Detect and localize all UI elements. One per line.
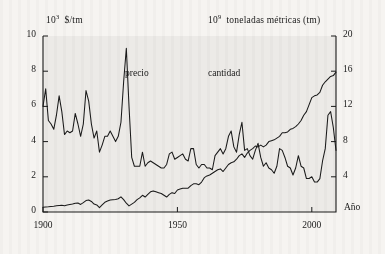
axis-frame: [43, 36, 336, 212]
y-ticklabel-left: 8: [31, 64, 36, 74]
y-ticklabel-right: 4: [343, 170, 348, 180]
y-ticklabel-right: 12: [343, 99, 353, 109]
x-ticklabel: 1950: [168, 220, 187, 230]
chart-svg: [0, 0, 385, 254]
y-ticklabel-right: 16: [343, 64, 353, 74]
y-ticklabel-left: 10: [27, 29, 37, 39]
y-ticklabel-right: 20: [343, 29, 353, 39]
series-line-precio: [43, 48, 336, 182]
y-ticklabel-left: 2: [31, 170, 36, 180]
y-ticklabel-left: 6: [31, 99, 36, 109]
x-ticklabel: 2000: [302, 220, 321, 230]
axes-group: [43, 36, 336, 212]
y-ticklabel-right: 8: [343, 135, 348, 145]
y-ticklabel-left: 4: [31, 135, 36, 145]
x-ticklabel: 1900: [34, 220, 53, 230]
ticks-group: [43, 36, 336, 212]
chart-figure: 103 $/tm 109 toneladas métricas (tm) pre…: [0, 0, 385, 254]
series-lines-group: [43, 48, 336, 207]
y-ticklabel-left: 0: [31, 205, 36, 215]
